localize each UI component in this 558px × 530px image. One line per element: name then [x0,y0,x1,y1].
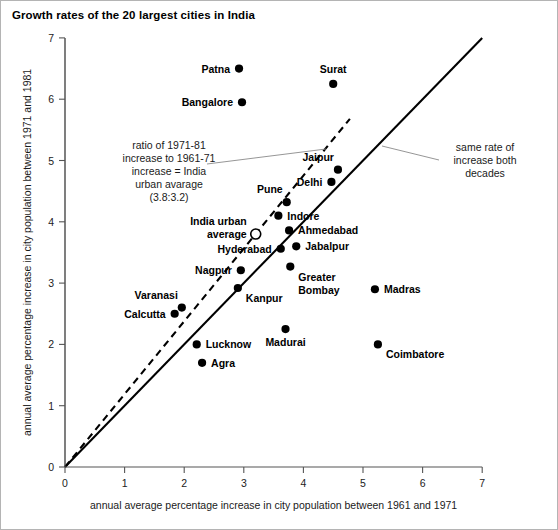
data-point-india-urban-average[interactable]: India urbanaverage [190,215,261,240]
data-point-madras[interactable]: Madras [371,283,421,295]
x-axis-title: annual average percentage increase in ci… [90,499,457,511]
point-label: Bangalore [182,96,234,108]
x-tick-label: 1 [122,477,128,489]
same-rate-note-leader [382,146,439,160]
data-point-pune[interactable]: Pune [257,183,291,206]
scatter-plot: 0123456701234567 PatnaSuratBangaloreJaip… [1,1,558,530]
marker-dot [237,266,245,274]
x-tick-label: 4 [300,477,306,489]
marker-dot [274,212,282,220]
point-label: Hyderabad [217,243,271,255]
y-tick-label: 0 [48,461,54,473]
data-point-calcutta[interactable]: Calcutta [124,308,179,320]
point-label: Lucknow [206,338,252,350]
annotation-line: ratio of 1971-81 [132,139,206,151]
point-label: Pune [257,183,283,195]
reference-lines-group [65,38,482,467]
annotation-ratio-note: ratio of 1971-81increase to 1961-71incre… [123,139,216,203]
x-tick-label: 6 [420,477,426,489]
data-point-jaipur[interactable]: Jaipur [302,151,342,174]
y-tick-label: 3 [48,277,54,289]
data-point-coimbatore[interactable]: Coimbatore [374,340,445,360]
marker-dot [171,310,179,318]
point-label: Calcutta [124,308,166,320]
y-tick-label: 1 [48,400,54,412]
marker-dot [285,226,293,234]
point-label: Jabalpur [305,240,349,252]
point-label: Agra [211,357,235,369]
point-label: Coimbatore [386,348,445,360]
point-label: Delhi [297,176,323,188]
annotation-line: increase both [453,154,516,166]
data-point-surat[interactable]: Surat [320,63,347,88]
data-point-indore[interactable]: Indore [274,210,319,222]
marker-dot [234,284,242,292]
annotation-line: same rate of [456,141,514,153]
marker-dot [238,98,246,106]
annotation-line: increase = India [132,165,207,177]
marker-dot [334,166,342,174]
data-point-hyderabad[interactable]: Hyderabad [217,243,284,255]
data-point-patna[interactable]: Patna [201,63,243,75]
point-label: average [207,228,247,240]
annotation-line: decades [465,167,505,179]
marker-open-circle [251,229,261,239]
reference-line-same-rate-both-decades [65,38,482,467]
y-tick-label: 4 [48,216,54,228]
marker-dot [283,198,291,206]
point-label: Nagpur [195,264,232,276]
point-label: Bombay [298,284,340,296]
data-point-bangalore[interactable]: Bangalore [182,96,246,108]
x-tick-label: 0 [62,477,68,489]
data-point-lucknow[interactable]: Lucknow [193,338,252,350]
data-point-jabalpur[interactable]: Jabalpur [292,240,349,252]
annotation-line: (3.8:3.2) [149,191,188,203]
marker-dot [374,340,382,348]
y-tick-label: 5 [48,155,54,167]
marker-dot [193,340,201,348]
marker-dot [198,359,206,367]
point-label: Ahmedabad [298,224,358,236]
y-axis-title: annual average percentage increase in ci… [21,69,33,436]
marker-dot [329,80,337,88]
point-label: Patna [201,63,230,75]
point-label: Jaipur [302,151,334,163]
y-tick-label: 2 [48,338,54,350]
marker-dot [277,245,285,253]
data-point-agra[interactable]: Agra [198,357,235,369]
point-label: Surat [320,63,347,75]
data-points-group: PatnaSuratBangaloreJaipurDelhiPuneIndore… [124,63,444,369]
x-tick-label: 3 [241,477,247,489]
data-point-madurai[interactable]: Madurai [265,325,305,348]
point-label: Madras [384,283,421,295]
data-point-greater-bombay[interactable]: GreaterBombay [286,262,340,295]
point-label: Madurai [265,336,305,348]
marker-dot [371,285,379,293]
point-label: Varanasi [135,289,178,301]
data-point-delhi[interactable]: Delhi [297,176,336,188]
marker-dot [178,304,186,312]
annotation-same-rate-note: same rate ofincrease bothdecades [453,141,516,179]
data-point-nagpur[interactable]: Nagpur [195,264,245,276]
annotation-line: urban avarage [135,178,203,190]
point-label: Kanpur [246,292,283,304]
annotation-line: increase to 1961-71 [123,152,216,164]
data-point-kanpur[interactable]: Kanpur [234,284,283,304]
marker-dot [235,64,243,72]
point-label: India urban [190,215,247,227]
marker-dot [286,262,294,270]
point-label: Indore [287,210,319,222]
x-tick-label: 2 [181,477,187,489]
y-tick-label: 6 [48,93,54,105]
marker-dot [281,325,289,333]
y-tick-label: 7 [48,32,54,44]
chart-figure: Growth rates of the 20 largest cities in… [0,0,558,530]
annotations-group: ratio of 1971-81increase to 1961-71incre… [123,139,517,203]
marker-dot [327,178,335,186]
marker-dot [292,242,300,250]
point-label: Greater [298,271,335,283]
x-tick-label: 5 [360,477,366,489]
x-tick-label: 7 [479,477,485,489]
